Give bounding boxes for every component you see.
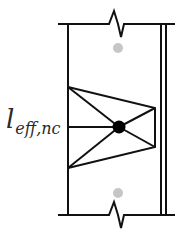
strut-tie-diagram <box>0 0 188 233</box>
anchor-dot-bottom <box>113 188 123 198</box>
anchor-dot-top <box>113 43 123 53</box>
top-break-line <box>58 11 175 37</box>
central-node <box>113 121 126 134</box>
bottom-break-line <box>58 202 175 228</box>
